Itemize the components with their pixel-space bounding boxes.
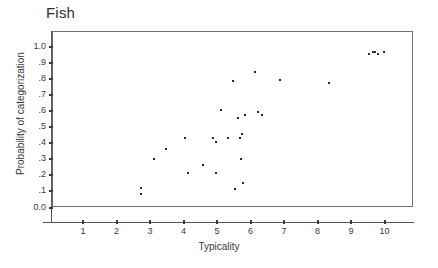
data-point — [279, 79, 281, 81]
y-axis-tick — [49, 174, 53, 176]
x-axis-tick-label: 2 — [105, 226, 129, 236]
data-point — [241, 133, 243, 135]
x-axis-tick — [384, 220, 386, 224]
y-axis-tick-label: .7 — [22, 90, 46, 99]
data-point — [232, 80, 234, 82]
y-axis-tick — [49, 190, 53, 192]
y-axis-tick — [49, 78, 53, 80]
y-axis-tick-label: 1.0 — [22, 42, 46, 51]
x-axis-tick-label: 4 — [172, 226, 196, 236]
data-point — [254, 71, 256, 73]
data-point — [239, 137, 241, 139]
y-axis-title: Probability of categorization — [15, 24, 26, 204]
data-point — [374, 51, 376, 53]
y-axis-tick-label: .6 — [22, 106, 46, 115]
x-axis-line — [43, 222, 414, 223]
y-axis-tick — [49, 62, 53, 64]
x-axis-tick — [183, 220, 185, 224]
y-axis-tick — [49, 94, 53, 96]
data-point — [140, 187, 142, 189]
x-axis-title: Typicality — [0, 241, 438, 252]
data-point — [328, 82, 330, 84]
x-axis-tick-label: 10 — [373, 226, 397, 236]
x-axis-tick-label: 9 — [339, 226, 363, 236]
x-axis-tick-label: 7 — [272, 226, 296, 236]
data-point — [261, 114, 263, 116]
data-point — [257, 111, 259, 113]
y-axis-tick-label: .2 — [22, 170, 46, 179]
x-axis-tick-label: 8 — [306, 226, 330, 236]
y-axis-tick — [49, 142, 53, 144]
data-point — [140, 193, 142, 195]
x-axis-tick — [283, 220, 285, 224]
data-point — [215, 141, 217, 143]
data-point — [383, 51, 385, 53]
data-point — [234, 188, 236, 190]
scatter-plot-figure: Fish 0.0.1.2.3.4.5.6.7.8.91.0 1234567891… — [0, 0, 438, 268]
y-axis-tick-label: .8 — [22, 74, 46, 83]
data-point — [153, 158, 155, 160]
x-axis-tick-label: 5 — [205, 226, 229, 236]
x-axis-tick — [216, 220, 218, 224]
y-axis-tick-label: .4 — [22, 138, 46, 147]
x-axis-tick — [317, 220, 319, 224]
chart-title: Fish — [46, 4, 75, 21]
data-point — [244, 114, 246, 116]
data-point — [237, 117, 239, 119]
y-axis-tick-label: .9 — [22, 58, 46, 67]
x-axis-tick — [350, 220, 352, 224]
data-point — [184, 137, 186, 139]
y-axis-tick — [49, 110, 53, 112]
data-point — [227, 137, 229, 139]
data-point — [202, 164, 204, 166]
x-axis-tick-label: 3 — [138, 226, 162, 236]
y-axis-tick-label: .5 — [22, 122, 46, 131]
data-point — [242, 182, 244, 184]
y-axis-tick — [49, 207, 53, 209]
x-axis-tick — [149, 220, 151, 224]
data-point — [377, 53, 379, 55]
x-axis-tick — [250, 220, 252, 224]
y-axis-tick-label: .3 — [22, 154, 46, 163]
data-point — [368, 53, 370, 55]
data-point — [212, 137, 214, 139]
y-axis-tick — [49, 126, 53, 128]
data-point — [187, 172, 189, 174]
x-axis-tick — [116, 220, 118, 224]
data-points-layer — [53, 32, 412, 206]
data-point — [215, 172, 217, 174]
y-axis-tick-label: 0.0 — [22, 203, 46, 212]
y-axis-tick-label: .1 — [22, 186, 46, 195]
y-axis-tick — [49, 46, 53, 48]
x-axis-tick-label: 6 — [239, 226, 263, 236]
x-axis-tick — [82, 220, 84, 224]
x-axis-tick-label: 1 — [71, 226, 95, 236]
data-point — [220, 109, 222, 111]
data-point — [240, 158, 242, 160]
data-point — [165, 148, 167, 150]
y-axis-tick — [49, 158, 53, 160]
plot-area — [52, 31, 413, 207]
